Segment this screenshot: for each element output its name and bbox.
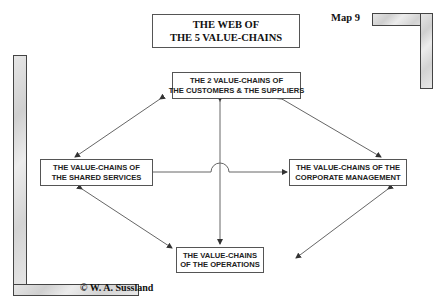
diagram-title: THE WEB OF THE 5 VALUE-CHAINS (152, 14, 300, 48)
node-shared-services: THE VALUE-CHAINS OF THE SHARED SERVICES (40, 159, 153, 186)
node-bottom-line-1: THE VALUE-CHAINS (183, 251, 257, 261)
node-left-line-2: THE SHARED SERVICES (52, 173, 142, 183)
title-line-1: THE WEB OF (193, 18, 259, 31)
node-top-line-2: THE CUSTOMERS & THE SUPPLIERS (169, 86, 305, 96)
node-corporate-management: THE VALUE-CHAINS OF THE CORPORATE MANAGE… (289, 159, 407, 186)
node-left-line-1: THE VALUE-CHAINS OF (53, 163, 140, 173)
map-label: Map 9 (331, 12, 360, 23)
node-top-line-1: THE 2 VALUE-CHAINS OF (190, 76, 283, 86)
title-line-2: THE 5 VALUE-CHAINS (170, 31, 282, 44)
node-customers-suppliers: THE 2 VALUE-CHAINS OF THE CUSTOMERS & TH… (172, 72, 301, 99)
node-right-line-2: CORPORATE MANAGEMENT (295, 173, 400, 183)
node-bottom-line-2: OF THE OPERATIONS (180, 260, 260, 270)
node-operations: THE VALUE-CHAINS OF THE OPERATIONS (176, 247, 264, 273)
node-right-line-1: THE VALUE-CHAINS OF THE (296, 163, 400, 173)
copyright-label: © W. A. Sussland (80, 282, 153, 293)
